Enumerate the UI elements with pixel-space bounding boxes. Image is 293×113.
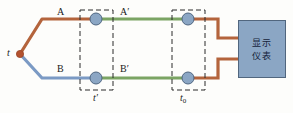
thermocouple-circuit-diagram: t A A′ B B′ t′ t0 显示 仪表 (0, 0, 293, 113)
label-box-t-zero-subscript: 0 (183, 97, 187, 105)
wire-a-orange (20, 19, 96, 54)
wire-meter-lower-orange (188, 59, 238, 78)
display-meter-box: 显示 仪表 (238, 20, 286, 78)
hot-junction-dot (16, 50, 23, 57)
node-a-prime-left (90, 13, 102, 25)
display-meter-line2: 仪表 (252, 49, 272, 62)
label-box-t-zero: t0 (180, 93, 186, 105)
node-b-prime-left (90, 72, 102, 84)
label-wire-a-prime: A′ (120, 7, 129, 17)
node-a-prime-right (182, 13, 194, 25)
label-wire-b-prime: B′ (120, 64, 129, 74)
label-box-t-prime: t′ (93, 93, 98, 103)
label-hot-junction-t: t (7, 48, 10, 58)
label-wire-b: B (57, 64, 64, 74)
display-meter-line1: 显示 (252, 36, 272, 49)
node-b-prime-right (182, 72, 194, 84)
wire-meter-upper-orange (188, 19, 238, 38)
label-wire-a: A (57, 7, 64, 17)
